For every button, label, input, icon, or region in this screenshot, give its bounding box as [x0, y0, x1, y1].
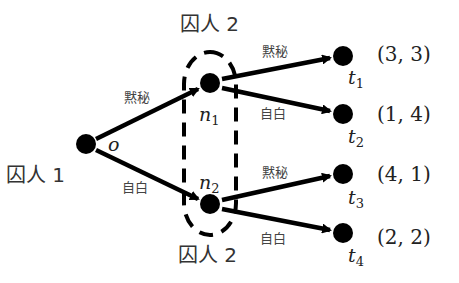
node-n2	[200, 194, 220, 214]
payoff-t4: (2, 2)	[377, 227, 431, 247]
payoff-t3: (4, 1)	[377, 164, 431, 184]
node-label-n2: n2	[199, 173, 220, 195]
node-t4	[333, 223, 353, 243]
player1-label: 囚人 1	[6, 165, 65, 185]
action-label-n2-t4: 自白	[260, 232, 286, 245]
node-label-t1: t1	[348, 68, 364, 90]
player2-bottom-label: 囚人 2	[178, 245, 237, 265]
action-label-n1-t1: 黙秘	[262, 45, 288, 58]
node-label-t4: t4	[348, 246, 364, 268]
action-label-o-n1: 黙秘	[124, 91, 150, 104]
action-label-n2-t3: 黙秘	[262, 166, 288, 179]
node-t2	[333, 104, 353, 124]
action-label-n1-t2: 自白	[260, 107, 286, 120]
payoff-t2: (1, 4)	[377, 104, 431, 124]
node-label-t3: t3	[348, 188, 364, 210]
edge-n1-to-t1	[222, 58, 330, 79]
player2-top-label: 囚人 2	[180, 14, 239, 34]
node-label-o: o	[108, 135, 119, 154]
edge-n2-to-t4	[222, 209, 330, 230]
node-t3	[333, 164, 353, 184]
action-label-o-n2: 自白	[122, 181, 148, 194]
payoff-t1: (3, 3)	[377, 44, 431, 64]
node-label-n1: n1	[199, 105, 220, 127]
node-label-t2: t2	[348, 127, 364, 149]
node-n1	[200, 73, 220, 93]
node-root-o	[76, 134, 96, 154]
node-t1	[333, 46, 353, 66]
